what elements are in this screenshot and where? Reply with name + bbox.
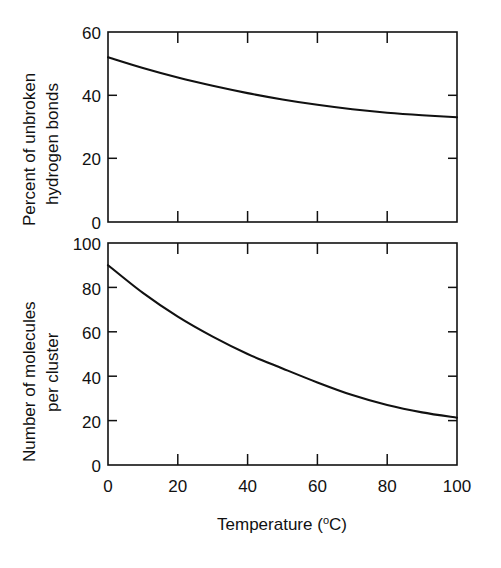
- bottom-panel-ylabel-line2: per cluster: [43, 332, 62, 412]
- xtick-label-100: 100: [443, 477, 471, 496]
- top-panel-ytick-label-0: 0: [92, 214, 101, 233]
- bottom-panel-ytick-label-60: 60: [82, 324, 101, 343]
- top-panel-ylabel-line2: hydrogen bonds: [43, 83, 62, 205]
- xtick-label-40: 40: [238, 477, 257, 496]
- xtick-label-0: 0: [103, 477, 112, 496]
- bottom-panel-ytick-label-20: 20: [82, 413, 101, 432]
- top-panel-ytick-label-60: 60: [82, 24, 101, 43]
- bottom-panel-curve: [108, 265, 457, 418]
- top-panel-frame: [108, 32, 457, 222]
- bottom-panel-ylabel-line1: Number of molecules: [20, 301, 39, 462]
- xtick-label-60: 60: [308, 477, 327, 496]
- top-panel-curve: [108, 57, 457, 117]
- top-panel: Percent of unbroken hydrogen bonds 60 40…: [20, 24, 457, 233]
- bottom-panel-ytick-label-0: 0: [92, 457, 101, 476]
- top-panel-ylabel-line1: Percent of unbroken: [20, 73, 39, 226]
- bottom-panel-ytick-label-80: 80: [82, 280, 101, 299]
- bottom-panel-frame: [108, 243, 457, 465]
- xtick-label-80: 80: [378, 477, 397, 496]
- figure-container: Percent of unbroken hydrogen bonds 60 40…: [0, 0, 501, 568]
- shared-x-axis: 0 20 40 60 80 100 Temperature (oC): [103, 477, 471, 534]
- xtick-label-20: 20: [168, 477, 187, 496]
- two-panel-line-chart: Percent of unbroken hydrogen bonds 60 40…: [0, 0, 501, 568]
- x-axis-title-tail: C): [329, 515, 347, 534]
- top-panel-ytick-label-20: 20: [82, 150, 101, 169]
- x-axis-title: Temperature (oC): [217, 514, 347, 534]
- bottom-panel-ytick-label-100: 100: [73, 235, 101, 254]
- top-panel-ytick-label-40: 40: [82, 87, 101, 106]
- bottom-panel-ytick-label-40: 40: [82, 369, 101, 388]
- bottom-panel: Number of molecules per cluster 100 80 6…: [20, 235, 457, 476]
- x-axis-title-main: Temperature (: [217, 515, 323, 534]
